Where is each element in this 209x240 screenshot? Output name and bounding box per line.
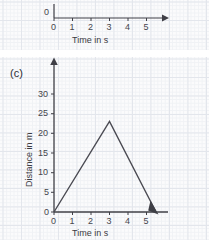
- bottom-panel-graph-paper: (c) 0 5 10 15 20 25 30 Distance in m 0 1…: [0, 57, 209, 240]
- bottom-panel-y-axis-title: Distance in m: [25, 132, 34, 187]
- bottom-panel-xtick-label-1: 1: [70, 217, 75, 226]
- bottom-panel-ytick-label-0: 0: [44, 208, 49, 217]
- panel-separator: [0, 50, 209, 57]
- top-panel-xtick-label-2: 2: [88, 23, 93, 32]
- bottom-panel-ytick-label-5: 5: [44, 188, 49, 197]
- bottom-panel-ytick-label-10: 10: [38, 168, 48, 177]
- bottom-panel-xtick-label-5: 5: [144, 217, 149, 226]
- top-panel-origin-label: 0: [44, 8, 49, 17]
- panel-label-c: (c): [10, 68, 23, 79]
- distance-time-series-line: [54, 121, 156, 212]
- figure-container: 0 0 1 2 3 4 5 Time in s: [0, 0, 209, 240]
- top-panel-xtick-label-4: 4: [125, 23, 130, 32]
- top-panel-xtick-label-3: 3: [107, 23, 112, 32]
- top-panel-xtick-label-1: 1: [70, 23, 75, 32]
- bottom-panel-xtick-label-0: 0: [51, 217, 56, 226]
- top-panel-x-axis-title: Time in s: [72, 36, 108, 45]
- top-panel-xtick-label-0: 0: [51, 23, 56, 32]
- top-panel-graph-paper: 0 0 1 2 3 4 5 Time in s: [0, 0, 209, 50]
- top-panel-xtick-label-5: 5: [144, 23, 149, 32]
- bottom-panel-xtick-label-2: 2: [88, 217, 93, 226]
- bottom-panel-ytick-label-25: 25: [38, 109, 48, 118]
- bottom-panel-ytick-label-20: 20: [38, 129, 48, 138]
- bottom-panel-ytick-label-15: 15: [38, 149, 48, 158]
- bottom-panel-xtick-label-4: 4: [125, 217, 130, 226]
- bottom-panel-x-axis-title: Time in s: [72, 229, 108, 238]
- bottom-panel-ytick-label-30: 30: [38, 90, 48, 99]
- bottom-panel-xtick-label-3: 3: [107, 217, 112, 226]
